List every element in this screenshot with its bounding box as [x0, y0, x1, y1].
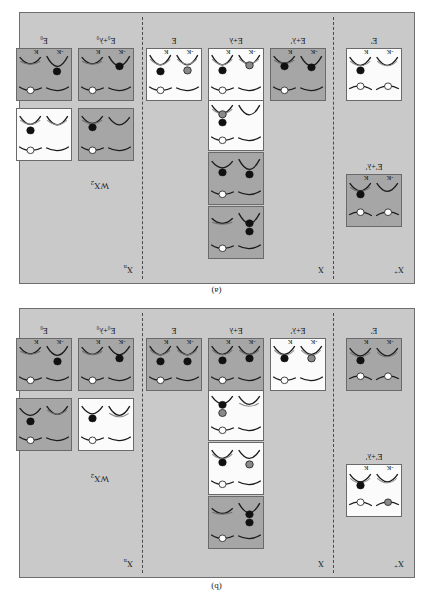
panel-b-group-label-xn: Xn — [124, 558, 133, 569]
k-minus-label: -K — [187, 339, 194, 346]
x-plus-text: X — [398, 265, 404, 275]
band-cell: -K K — [270, 338, 326, 391]
band-cell — [208, 442, 264, 495]
k-plus-label: K — [364, 49, 369, 56]
x-plus-text: X — [398, 559, 404, 569]
panel-a-divider-1 — [333, 17, 334, 279]
energy-label: E+λ′ — [268, 326, 328, 335]
band-cell — [16, 108, 72, 161]
panel-b: (b) X+ X Xn WX2 — [0, 298, 433, 596]
wx2-text: WX — [94, 181, 109, 191]
k-minus-label: -K — [387, 49, 394, 56]
panel-b-caption: (b) — [0, 582, 433, 592]
k-plus-label: K — [164, 49, 169, 56]
band-cell: -K K — [78, 48, 134, 101]
band-cell: -K K — [208, 48, 264, 101]
band-cell: -K K — [146, 338, 202, 391]
x-plus-sup: + — [394, 269, 397, 275]
band-cell: -K K — [78, 338, 134, 391]
panel-a-group-label-xn: Xn — [124, 264, 133, 275]
band-cell: -K K — [346, 338, 402, 391]
panel-a: (a) X+ X Xn WX2 — [0, 0, 433, 298]
k-plus-label: K — [96, 339, 101, 346]
band-cell — [78, 398, 134, 451]
k-minus-label: -K — [57, 49, 64, 56]
panel-b-box: X+ X Xn WX2 — [19, 308, 415, 578]
k-plus-label: K — [226, 49, 231, 56]
k-minus-label: -K — [119, 49, 126, 56]
k-plus-label: K — [364, 465, 369, 472]
band-cell: -K K — [346, 174, 402, 227]
k-plus-label: K — [288, 339, 293, 346]
band-cell: -K K — [16, 338, 72, 391]
energy-label: E₀+λ₀ — [76, 36, 136, 45]
x-plus-sup: + — [394, 563, 397, 569]
band-cell: -K K — [208, 338, 264, 391]
panel-b-divider-2 — [142, 313, 143, 573]
k-plus-label: K — [226, 339, 231, 346]
panel-a-group-label-x: X — [318, 265, 324, 275]
energy-label: E′+λ′ — [346, 452, 402, 461]
band-cell: -K K — [270, 48, 326, 101]
energy-label: E — [146, 36, 202, 45]
band-cell — [208, 496, 264, 549]
panel-b-divider-1 — [333, 313, 334, 573]
wx2-sub: 2 — [91, 180, 94, 187]
band-cell — [208, 388, 264, 441]
energy-label: E — [146, 326, 202, 335]
band-cell: -K K — [346, 48, 402, 101]
band-cell — [16, 398, 72, 451]
k-minus-label: -K — [387, 175, 394, 182]
k-minus-label: -K — [311, 339, 318, 346]
band-cell — [78, 108, 134, 161]
x-minus-text: X — [127, 265, 133, 275]
band-cell: -K K — [16, 48, 72, 101]
energy-label: E+λ — [206, 326, 266, 335]
x-neutral-text: X — [318, 559, 324, 569]
k-minus-label: -K — [187, 49, 194, 56]
panel-a-group-label-xplus: X+ — [394, 265, 404, 275]
panel-b-group-label-xplus: X+ — [394, 559, 404, 569]
k-plus-label: K — [34, 49, 39, 56]
energy-label: E′ — [346, 326, 402, 335]
band-cell: -K K — [146, 48, 202, 101]
k-plus-label: K — [288, 49, 293, 56]
wx2-sub: 2 — [91, 473, 94, 480]
wx2-text: WX — [94, 474, 109, 484]
panel-a-material-label: WX2 — [91, 180, 109, 191]
energy-label: E′ — [346, 36, 402, 45]
k-minus-label: -K — [119, 339, 126, 346]
k-plus-label: K — [34, 339, 39, 346]
figure-root: (b) X+ X Xn WX2 — [0, 0, 433, 596]
panel-a-divider-2 — [142, 17, 143, 279]
k-minus-label: -K — [249, 339, 256, 346]
k-minus-label: -K — [249, 49, 256, 56]
k-minus-label: -K — [387, 465, 394, 472]
band-cell — [208, 98, 264, 151]
energy-label: E₀+λ₀ — [76, 326, 136, 335]
k-minus-label: -K — [311, 49, 318, 56]
x-minus-sub: n — [124, 264, 127, 270]
band-cell: -K K — [346, 464, 402, 517]
panel-a-box: X+ X Xn WX2 — [19, 12, 415, 284]
energy-label: E+λ — [206, 36, 266, 45]
panel-a-caption: (a) — [0, 286, 433, 296]
k-plus-label: K — [364, 339, 369, 346]
energy-label: E′+λ′ — [346, 162, 402, 171]
band-cell — [208, 206, 264, 259]
panel-b-group-label-x: X — [318, 559, 324, 569]
energy-label: E₀ — [16, 326, 72, 335]
energy-label: E+λ′ — [268, 36, 328, 45]
k-plus-label: K — [96, 49, 101, 56]
band-cell — [208, 152, 264, 205]
x-minus-text: X — [127, 559, 133, 569]
k-minus-label: -K — [57, 339, 64, 346]
k-plus-label: K — [364, 175, 369, 182]
k-plus-label: K — [164, 339, 169, 346]
k-minus-label: -K — [387, 339, 394, 346]
energy-label: E₀ — [16, 36, 72, 45]
panel-b-material-label: WX2 — [91, 473, 109, 484]
x-minus-sub: n — [124, 558, 127, 564]
x-neutral-text: X — [318, 265, 324, 275]
